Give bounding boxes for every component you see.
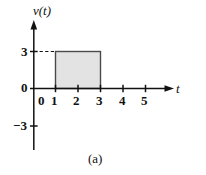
x-tick-label-5: 5 xyxy=(141,94,148,107)
y-axis-arrowhead xyxy=(31,20,38,30)
x-axis-label: t xyxy=(176,82,180,95)
y-tick-label-negative-3: −3 xyxy=(13,119,27,132)
x-tick-label-0: 0 xyxy=(38,94,45,107)
figure-caption: (a) xyxy=(88,152,102,165)
y-axis-label: v(t) xyxy=(33,4,51,17)
x-axis-arrowhead xyxy=(165,85,175,92)
x-tick-label-2: 2 xyxy=(73,94,80,107)
waveform-figure: v(t) t 3 0 −3 0 1 2 3 4 5 (a) xyxy=(0,0,206,175)
y-tick-label-0: 0 xyxy=(21,81,28,94)
pulse-rectangle xyxy=(56,52,101,89)
x-tick-label-3: 3 xyxy=(96,94,103,107)
y-tick-label-3: 3 xyxy=(21,45,28,58)
x-tick-label-1: 1 xyxy=(51,94,58,107)
x-tick-label-4: 4 xyxy=(119,94,126,107)
